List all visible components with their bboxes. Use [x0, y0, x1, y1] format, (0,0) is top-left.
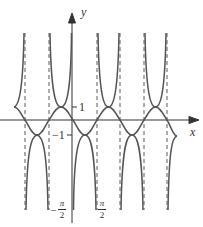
x-axis-arrow-icon — [189, 117, 199, 124]
y-axis-label: y — [81, 6, 86, 18]
y-tick-label-neg1: −1 — [52, 129, 65, 141]
y-axis-arrow-icon — [69, 13, 76, 23]
x-tick-label-pi-over-2: π 2 — [98, 199, 106, 220]
wave-curve — [14, 107, 177, 136]
y-tick-label-1: 1 — [79, 101, 85, 113]
graph-canvas — [0, 0, 203, 227]
x-tick-label-neg-pi-over-2: − π 2 — [58, 199, 66, 220]
x-axis-label: x — [190, 126, 195, 138]
